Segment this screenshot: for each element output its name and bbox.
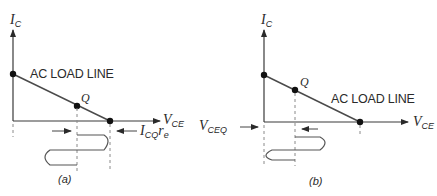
ac-load-line xyxy=(13,74,110,121)
y-axis-label: IC xyxy=(261,13,272,29)
load-line-label: AC LOAD LINE xyxy=(30,68,114,81)
label-sub: C xyxy=(15,19,22,29)
caption-a: (a) xyxy=(58,174,71,185)
label-sub: CQ xyxy=(145,130,159,140)
q-label: Q xyxy=(300,76,309,88)
caption-b: (b) xyxy=(309,176,322,187)
q-label: Q xyxy=(81,92,90,104)
label-sub: CE xyxy=(172,119,185,129)
vceq-label: VCEQ xyxy=(199,119,227,135)
label-main: V xyxy=(413,114,422,129)
x-axis-label: VCE xyxy=(413,115,434,131)
q-point-dot xyxy=(292,87,298,93)
load-line-label: AC LOAD LINE xyxy=(331,93,415,106)
label-main: V xyxy=(199,118,208,133)
label-sub: CE xyxy=(422,121,435,131)
x-intercept-dot xyxy=(107,118,113,124)
icq-re-label: ICQre xyxy=(140,124,169,140)
label-sub2: e xyxy=(164,130,169,140)
y-axis-label: IC xyxy=(10,13,21,29)
y-intercept-dot xyxy=(261,72,267,78)
label-sub: CEQ xyxy=(208,125,228,135)
x-intercept-dot xyxy=(357,119,363,125)
y-intercept-dot xyxy=(10,71,16,77)
label-sub: C xyxy=(266,19,273,29)
